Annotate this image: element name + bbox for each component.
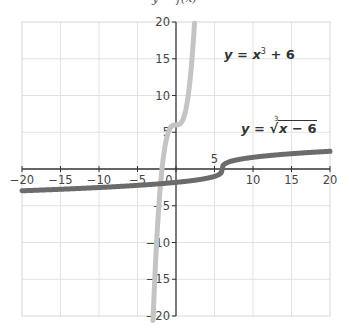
- equation-label-cubic: y = x3 + 6: [224, 47, 295, 62]
- y-tick-label: 10: [155, 89, 170, 103]
- radical-icon: √: [269, 121, 278, 136]
- eq2-tail: − 6: [288, 121, 317, 136]
- x-tick-label: 10: [246, 173, 261, 187]
- equation-label-cuberoot: y = 3√x − 6: [241, 121, 317, 136]
- y-tick-label: −20: [146, 309, 170, 323]
- x-tick-label: 5: [211, 152, 218, 166]
- x-tick-label: −15: [48, 173, 72, 187]
- eq2-x: x: [279, 121, 287, 136]
- eq1-x: x: [252, 47, 260, 62]
- chart-plot: −20−15−10−505101520−20−15−10−55101520: [0, 0, 349, 332]
- eq2-radicand: x − 6: [278, 120, 316, 136]
- x-tick-label: 20: [323, 173, 338, 187]
- y-tick-label: 15: [155, 52, 170, 66]
- x-tick-label: 15: [284, 173, 299, 187]
- y-tick-label: −15: [146, 272, 170, 286]
- axes: [22, 22, 330, 316]
- eq1-equals: =: [232, 47, 252, 62]
- eq2-root-index: 3: [274, 115, 278, 123]
- eq2-equals: =: [249, 121, 269, 136]
- x-tick-label: −20: [10, 173, 34, 187]
- y-tick-label: 20: [155, 15, 170, 29]
- eq1-tail: + 6: [266, 47, 295, 62]
